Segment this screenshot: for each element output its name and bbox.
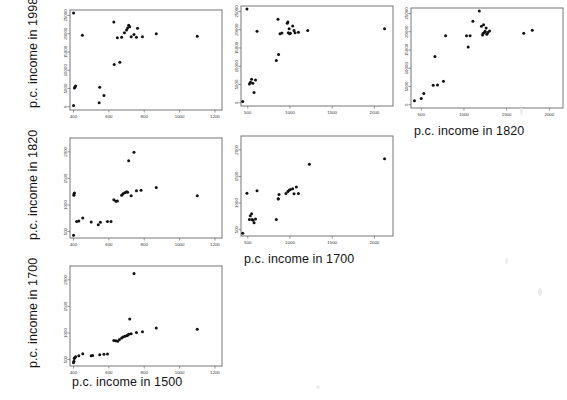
svg-text:600: 600	[105, 242, 113, 247]
svg-text:0: 0	[234, 101, 239, 104]
axis-title-y-1820: p.c. income in 1820	[26, 130, 40, 240]
svg-text:600: 600	[105, 370, 113, 375]
panel-1820-vs-1500: 40060080010001200500100015002000	[48, 134, 226, 250]
svg-text:1000: 1000	[234, 198, 239, 208]
svg-text:20000: 20000	[63, 27, 68, 40]
svg-text:5000: 5000	[63, 83, 68, 93]
svg-text:400: 400	[70, 242, 78, 247]
svg-text:15000: 15000	[234, 41, 239, 54]
svg-text:1000: 1000	[63, 328, 68, 338]
panel-1998-vs-1500: 4006008001000120005000100001500020000250…	[48, 6, 226, 122]
svg-text:1000: 1000	[175, 114, 185, 119]
panel-1998-vs-1700: 5001000150020000500010000150002000025000	[219, 2, 397, 118]
svg-text:15000: 15000	[63, 45, 68, 58]
svg-text:2000: 2000	[63, 146, 68, 156]
svg-text:1500: 1500	[327, 110, 337, 115]
svg-text:10000: 10000	[234, 60, 239, 73]
scan-speck	[505, 258, 508, 264]
panel-1820-vs-1700: 500100015002000500100015002000	[219, 132, 397, 248]
panel-1998-vs-1820: 5001000150020000500010000150002000025000	[389, 4, 567, 120]
svg-text:10000: 10000	[404, 62, 409, 75]
svg-text:1000: 1000	[175, 370, 185, 375]
svg-text:1500: 1500	[63, 301, 68, 311]
svg-text:1000: 1000	[285, 110, 295, 115]
svg-text:500: 500	[418, 112, 426, 117]
svg-text:0: 0	[404, 103, 409, 106]
svg-text:2000: 2000	[370, 110, 380, 115]
svg-text:1200: 1200	[210, 370, 220, 375]
svg-text:20000: 20000	[404, 25, 409, 38]
svg-text:1000: 1000	[63, 200, 68, 210]
svg-text:2000: 2000	[63, 274, 68, 284]
svg-text:2000: 2000	[234, 144, 239, 154]
svg-text:5000: 5000	[404, 81, 409, 91]
axis-title-x-1820: p.c. income in 1820	[414, 124, 524, 138]
svg-text:500: 500	[63, 227, 68, 235]
svg-text:500: 500	[244, 240, 252, 245]
svg-text:800: 800	[141, 242, 149, 247]
svg-text:1000: 1000	[285, 240, 295, 245]
svg-text:1500: 1500	[63, 173, 68, 183]
svg-text:10000: 10000	[63, 64, 68, 77]
svg-text:1000: 1000	[459, 112, 469, 117]
svg-text:600: 600	[105, 114, 113, 119]
svg-text:1500: 1500	[327, 240, 337, 245]
svg-text:1500: 1500	[502, 112, 512, 117]
svg-text:25000: 25000	[404, 7, 409, 20]
svg-text:400: 400	[70, 370, 78, 375]
svg-text:5000: 5000	[234, 79, 239, 89]
axis-title-y-1998: p.c. income in 1998	[26, 0, 40, 108]
svg-text:25000: 25000	[234, 5, 239, 18]
svg-text:2000: 2000	[544, 112, 554, 117]
svg-text:25000: 25000	[63, 9, 68, 22]
svg-text:20000: 20000	[234, 23, 239, 36]
svg-text:800: 800	[141, 370, 149, 375]
axis-title-x-1700: p.c. income in 1700	[244, 252, 354, 266]
svg-text:400: 400	[70, 114, 78, 119]
svg-text:500: 500	[244, 110, 252, 115]
svg-text:500: 500	[234, 225, 239, 233]
svg-text:1000: 1000	[175, 242, 185, 247]
svg-text:1500: 1500	[234, 171, 239, 181]
scan-speck	[316, 385, 320, 389]
panel-1700-vs-1500: 40060080010001200500100015002000	[48, 262, 226, 378]
svg-text:2000: 2000	[370, 240, 380, 245]
scan-speck	[538, 288, 542, 296]
svg-text:0: 0	[63, 105, 68, 108]
scan-speck	[520, 108, 523, 115]
svg-text:15000: 15000	[404, 43, 409, 56]
axis-title-y-1700: p.c. income in 1700	[26, 258, 40, 368]
svg-text:500: 500	[63, 355, 68, 363]
svg-text:800: 800	[141, 114, 149, 119]
